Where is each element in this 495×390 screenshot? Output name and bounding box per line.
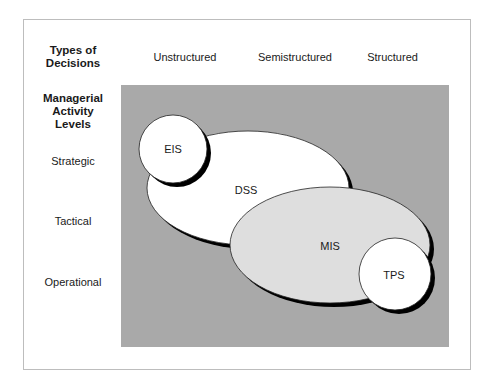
eis-label: EIS (164, 143, 182, 155)
systems-diagram: EIS DSS MIS TPS (0, 0, 495, 390)
mis-label: MIS (320, 240, 340, 252)
tps-label: TPS (383, 269, 404, 281)
dss-label: DSS (235, 184, 258, 196)
